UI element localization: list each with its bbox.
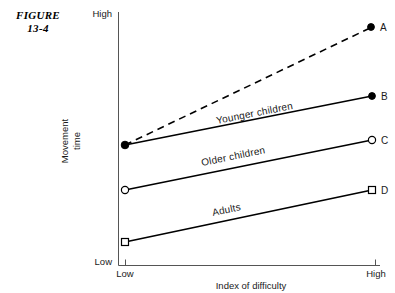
- y-axis-title-line-2: time: [71, 132, 82, 150]
- series-b-inline-label: Younger children: [215, 100, 294, 126]
- x-axis-label-low: Low: [116, 268, 134, 279]
- figure-root: FIGURE 13-4 Adults D Older children C Yo…: [0, 0, 395, 293]
- x-axis-title: Index of difficulty: [216, 280, 287, 291]
- series-line-a: [125, 28, 370, 145]
- series-d-inline-label: Adults: [211, 201, 242, 218]
- y-axis-label-high: High: [92, 8, 112, 19]
- series-c-marker-end: [368, 136, 375, 143]
- series-line-b: [125, 96, 372, 145]
- series-d-marker-end: [369, 187, 376, 194]
- y-axis-title-line-1: Movement: [59, 118, 70, 163]
- line-chart: Adults D Older children C Younger childr…: [0, 0, 395, 293]
- series-d-marker-start: [122, 239, 129, 246]
- series-line-d: [125, 190, 372, 242]
- series-c-marker-start: [121, 186, 128, 193]
- x-axis-label-high: High: [366, 268, 386, 279]
- series-b-marker-end: [369, 93, 376, 100]
- series-d-end-label: D: [381, 185, 388, 196]
- series-a-marker-end: [368, 24, 375, 31]
- series-a-end-label: A: [380, 22, 387, 33]
- series-b-end-label: B: [381, 91, 388, 102]
- series-ab-shared-origin-marker: [121, 141, 129, 149]
- series-c-end-label: C: [381, 135, 388, 146]
- y-axis-label-low: Low: [95, 256, 113, 267]
- series-c-inline-label: Older children: [200, 144, 266, 168]
